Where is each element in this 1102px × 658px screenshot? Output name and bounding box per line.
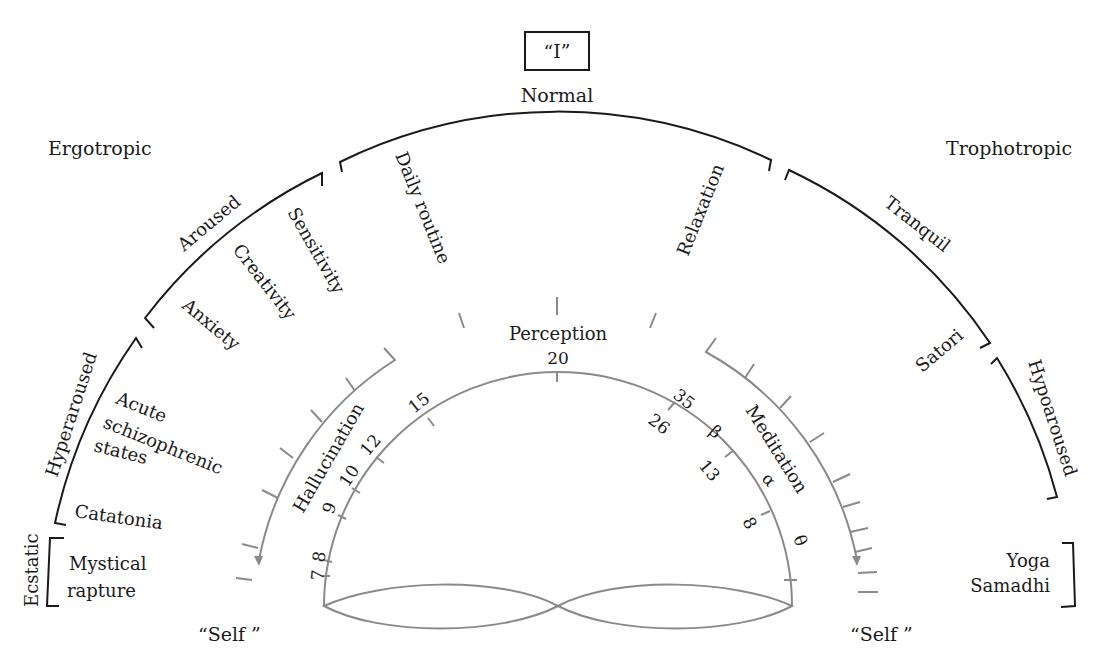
samadhi-label: Samadhi [970, 575, 1050, 596]
daily-routine-label: Daily routine [391, 149, 455, 267]
catatonia-label: Catatonia [73, 500, 164, 533]
creativity-label: Creativity [229, 240, 302, 325]
i-label: “I” [544, 40, 571, 62]
value-15: 15 [404, 388, 433, 417]
alpha-label: α [758, 469, 781, 491]
aroused-label: Aroused [172, 190, 244, 255]
yoga-label: Yoga [1006, 550, 1051, 571]
value-10: 10 [335, 461, 364, 490]
theta-label: θ [789, 532, 811, 549]
perception-label: Perception [509, 323, 608, 344]
ergotropic-label: Ergotropic [48, 137, 152, 159]
value-8-right: 8 [738, 513, 761, 532]
perception-tick-right [650, 313, 656, 328]
normal-label: Normal [521, 84, 594, 106]
value-12: 12 [356, 430, 385, 459]
value-26: 26 [645, 409, 674, 438]
value-13: 13 [695, 456, 724, 485]
hypoaroused-label: Hypoaroused [1024, 357, 1081, 479]
self-right-label: “Self ” [850, 623, 913, 645]
satori-label: Satori [911, 324, 967, 376]
ecstatic-bracket [47, 538, 64, 606]
hallucination-arrowhead [254, 556, 263, 566]
trophotropic-label: Trophotropic [946, 137, 1072, 159]
self-left-label: “Self ” [198, 623, 261, 645]
inner-semicircle [324, 372, 792, 606]
yoga-bracket [1061, 543, 1075, 607]
meditation-arrowhead [852, 556, 861, 566]
value-20: 20 [547, 348, 569, 368]
left-loop [324, 585, 558, 629]
value-7: 7 [307, 569, 328, 582]
mystical-label: Mystical [69, 553, 147, 574]
cartography-diagram: “I” Normal Ergotropic Trophotropic Daily… [0, 0, 1102, 658]
meditation-label: Meditation [742, 401, 813, 497]
right-loop [558, 585, 792, 629]
ecstatic-label: Ecstatic [21, 534, 42, 608]
sensitivity-label: Sensitivity [284, 204, 351, 298]
tranquil-label: Tranquil [881, 192, 955, 256]
rapture-label: rapture [67, 580, 136, 601]
perception-tick-left [459, 313, 464, 328]
value-9: 9 [318, 499, 340, 516]
tranquil-arc [785, 170, 990, 348]
relaxation-label: Relaxation [672, 160, 728, 258]
anxiety-label: Anxiety [178, 293, 245, 354]
value-35: 35 [670, 384, 699, 413]
value-8-left: 8 [308, 550, 330, 564]
inner-ticks [322, 372, 797, 580]
